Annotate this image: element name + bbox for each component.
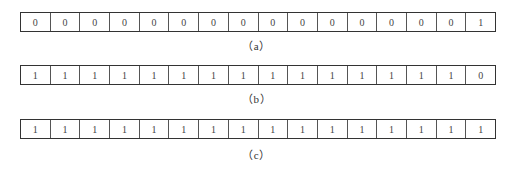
bit-cell: 0 bbox=[318, 13, 348, 31]
bit-cell: 0 bbox=[80, 13, 110, 31]
bit-cell: 1 bbox=[51, 120, 81, 138]
bit-cell: 0 bbox=[259, 13, 289, 31]
bit-cell: 0 bbox=[466, 66, 495, 84]
bit-cell: 1 bbox=[199, 120, 229, 138]
bit-cell: 1 bbox=[348, 120, 378, 138]
bit-cell: 0 bbox=[140, 13, 170, 31]
bit-cell: 1 bbox=[377, 120, 407, 138]
figure-caption-c: （c） bbox=[0, 146, 513, 162]
bit-cell: 0 bbox=[288, 13, 318, 31]
bit-cell: 0 bbox=[169, 13, 199, 31]
bit-cell: 1 bbox=[199, 66, 229, 84]
bit-register-c: 1 1 1 1 1 1 1 1 1 1 1 1 1 1 1 1 bbox=[20, 119, 496, 139]
bit-cell: 1 bbox=[140, 120, 170, 138]
bit-register-a: 0 0 0 0 0 0 0 0 0 0 0 0 0 0 0 1 bbox=[20, 12, 496, 32]
bit-cell: 1 bbox=[110, 66, 140, 84]
bit-cell: 1 bbox=[51, 66, 81, 84]
bit-register-b: 1 1 1 1 1 1 1 1 1 1 1 1 1 1 1 0 bbox=[20, 65, 496, 85]
bit-cell: 1 bbox=[437, 120, 467, 138]
bit-cell: 1 bbox=[288, 66, 318, 84]
bit-cell: 1 bbox=[110, 120, 140, 138]
bit-cell: 0 bbox=[348, 13, 378, 31]
bit-cell: 0 bbox=[229, 13, 259, 31]
figure-caption-a: （a） bbox=[0, 37, 513, 53]
bit-cell: 1 bbox=[348, 66, 378, 84]
bit-cell: 1 bbox=[259, 66, 289, 84]
bit-cell: 1 bbox=[21, 66, 51, 84]
bit-cell: 0 bbox=[110, 13, 140, 31]
bit-cell: 1 bbox=[80, 66, 110, 84]
bit-cell: 1 bbox=[318, 66, 348, 84]
bit-cell: 0 bbox=[51, 13, 81, 31]
bit-cell: 1 bbox=[318, 120, 348, 138]
bit-cell: 1 bbox=[407, 66, 437, 84]
bit-cell: 1 bbox=[169, 66, 199, 84]
bit-cell: 1 bbox=[80, 120, 110, 138]
bit-cell: 1 bbox=[140, 66, 170, 84]
bit-cell: 0 bbox=[377, 13, 407, 31]
bit-cell: 1 bbox=[169, 120, 199, 138]
bit-cell: 1 bbox=[288, 120, 318, 138]
bit-cell: 1 bbox=[21, 120, 51, 138]
bit-cell: 1 bbox=[466, 13, 495, 31]
bit-cell: 0 bbox=[199, 13, 229, 31]
bit-cell: 0 bbox=[437, 13, 467, 31]
bit-cell: 1 bbox=[377, 66, 407, 84]
figure-caption-b: （b） bbox=[0, 90, 513, 106]
bit-cell: 0 bbox=[21, 13, 51, 31]
bit-cell: 1 bbox=[437, 66, 467, 84]
bit-cell: 0 bbox=[407, 13, 437, 31]
bit-cell: 1 bbox=[466, 120, 495, 138]
bit-cell: 1 bbox=[259, 120, 289, 138]
bit-cell: 1 bbox=[407, 120, 437, 138]
bit-cell: 1 bbox=[229, 66, 259, 84]
bit-cell: 1 bbox=[229, 120, 259, 138]
